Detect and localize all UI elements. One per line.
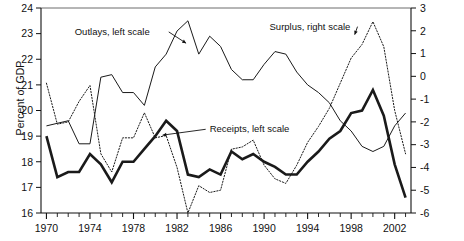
x-tick-label: 1982: [165, 222, 189, 234]
y-tick-label-right: -2: [420, 116, 429, 128]
x-tick-label: 1970: [35, 222, 59, 234]
x-tick-label: 1994: [296, 222, 320, 234]
series-line-surplus: [46, 22, 405, 213]
annotation-surplus: Surplus, right scale: [270, 21, 351, 32]
x-tick-label: 1974: [78, 222, 102, 234]
x-tick-label: 1990: [252, 222, 276, 234]
y-tick-label-left: 19: [21, 130, 33, 142]
y-tick-label-right: 3: [420, 2, 426, 14]
annotation-arrow: [354, 27, 357, 35]
budget-line-chart: 1970197419781982198619901994199820021617…: [0, 0, 464, 241]
y-tick-label-left: 24: [21, 2, 33, 14]
y-tick-label-right: -1: [420, 93, 429, 105]
y-tick-label-left: 18: [21, 156, 33, 168]
annotation-arrow: [169, 32, 186, 43]
y-tick-label-left: 22: [21, 53, 33, 65]
y-tick-label-right: 2: [420, 25, 426, 37]
x-tick-label: 2002: [383, 222, 407, 234]
x-tick-label: 1998: [339, 222, 363, 234]
y-tick-label-right: 1: [420, 47, 426, 59]
y-tick-label-left: 17: [21, 181, 33, 193]
x-tick-label: 1986: [209, 222, 233, 234]
annotation-receipts: Receipts, left scale: [210, 123, 290, 134]
y-tick-label-left: 23: [21, 27, 33, 39]
y-tick-label-right: -6: [420, 207, 429, 219]
x-tick-label: 1978: [122, 222, 146, 234]
y-tick-label-right: 0: [420, 70, 426, 82]
series-line-receipts: [46, 90, 405, 198]
y-tick-label-right: -4: [420, 161, 429, 173]
annotation-arrow: [163, 129, 206, 136]
y-tick-label-right: -5: [420, 184, 429, 196]
chart-figure: Percent of GDP 1970197419781982198619901…: [0, 0, 464, 241]
y-tick-label-left: 21: [21, 79, 33, 91]
annotation-outlays: Outlays, left scale: [75, 26, 150, 37]
y-tick-label-left: 16: [21, 207, 33, 219]
y-tick-label-left: 20: [21, 104, 33, 116]
y-tick-label-right: -3: [420, 138, 429, 150]
